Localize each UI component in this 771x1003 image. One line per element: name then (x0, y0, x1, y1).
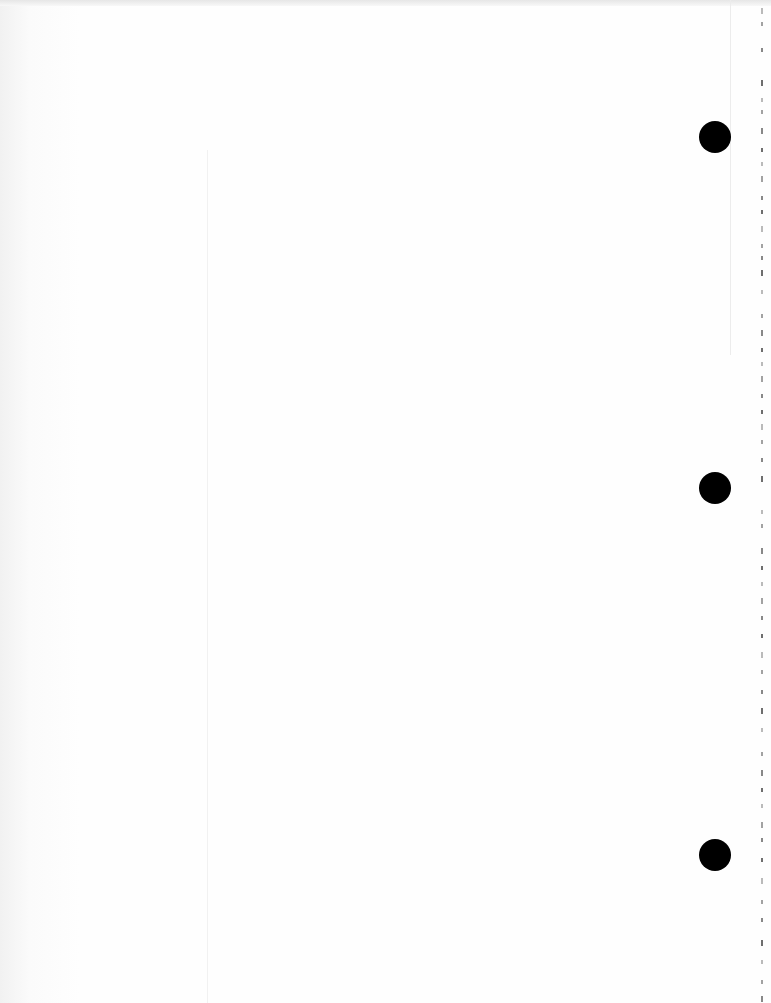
hole-top-icon (699, 121, 731, 153)
right-guide-line (730, 0, 731, 355)
edge-tick (761, 510, 763, 514)
edge-tick (761, 524, 763, 528)
edge-tick (761, 634, 763, 638)
edge-tick (761, 410, 763, 414)
hole-middle-icon (699, 472, 731, 504)
hole-bottom-icon (699, 839, 731, 871)
scanned-page (0, 0, 771, 1003)
edge-tick (761, 458, 763, 462)
edge-tick (761, 690, 763, 694)
edge-tick (761, 940, 763, 946)
edge-tick (761, 424, 763, 430)
edge-tick (761, 148, 763, 152)
edge-tick (761, 440, 763, 444)
edge-tick (761, 670, 763, 674)
edge-tick (761, 598, 763, 604)
edge-tick (761, 996, 763, 1002)
edge-tick (761, 652, 763, 658)
edge-tick (761, 244, 763, 248)
edge-tick (761, 162, 763, 166)
edge-tick (761, 918, 763, 922)
edge-tick (761, 256, 763, 260)
edge-tick (761, 22, 763, 26)
edge-tick (761, 80, 763, 86)
edge-tick (761, 362, 763, 366)
edge-tick (761, 290, 763, 294)
edge-tick (761, 616, 763, 620)
edge-tick (761, 804, 763, 808)
edge-tick (761, 394, 763, 398)
edge-tick (761, 858, 763, 862)
edge-tick (761, 98, 763, 102)
edge-tick (761, 566, 763, 570)
top-edge-shadow (0, 0, 771, 6)
edge-tick (761, 728, 763, 732)
edge-tick (761, 128, 763, 134)
edge-tick (761, 752, 763, 756)
edge-tick (761, 270, 763, 276)
edge-tick (761, 314, 763, 318)
edge-tick (761, 196, 763, 200)
edge-tick (761, 8, 763, 14)
edge-tick (761, 110, 763, 114)
edge-tick (761, 348, 763, 352)
edge-tick (761, 838, 763, 842)
margin-line (207, 150, 208, 1003)
edge-tick (761, 376, 763, 382)
edge-tick (761, 176, 763, 182)
edge-tick (761, 708, 763, 714)
edge-tick (761, 548, 763, 554)
edge-tick (761, 476, 763, 482)
edge-tick (761, 770, 763, 776)
edge-tick (761, 822, 763, 828)
edge-tick (761, 226, 763, 232)
edge-tick (761, 582, 763, 586)
edge-tick (761, 48, 763, 52)
edge-tick-marks (758, 0, 768, 1003)
edge-tick (761, 960, 763, 964)
edge-tick (761, 788, 763, 792)
edge-tick (761, 900, 763, 904)
edge-tick (761, 210, 763, 214)
edge-tick (761, 330, 763, 336)
edge-tick (761, 980, 763, 984)
edge-tick (761, 878, 763, 884)
